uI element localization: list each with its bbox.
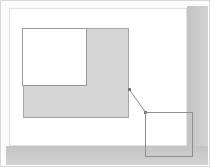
leader-anchor-source: [128, 88, 131, 91]
detail-callout-square[interactable]: [145, 112, 193, 157]
figure-canvas: [0, 0, 211, 168]
inset-white-rect[interactable]: [22, 28, 87, 86]
